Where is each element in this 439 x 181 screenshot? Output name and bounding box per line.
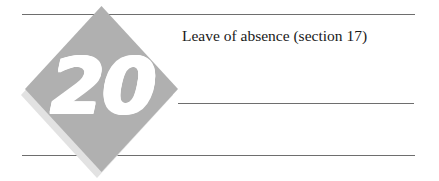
diamond-shape: [25, 6, 178, 172]
rule-middle: [178, 103, 414, 104]
chapter-number-badge: 20: [25, 6, 178, 172]
chapter-heading-banner: 20 Leave of absence (section 17): [0, 0, 439, 181]
chapter-title: Leave of absence (section 17): [182, 27, 410, 45]
diamond-icon: [25, 6, 178, 172]
